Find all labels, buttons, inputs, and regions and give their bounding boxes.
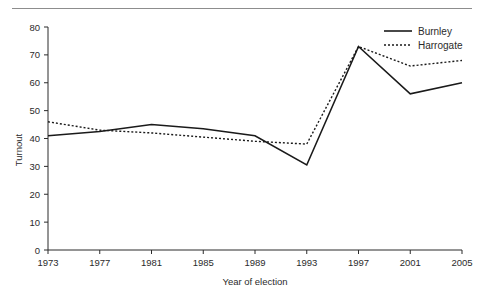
x-tick-label: 2001 — [400, 257, 421, 268]
x-tick-label: 1997 — [348, 257, 369, 268]
y-tick-label: 70 — [29, 49, 40, 60]
x-tick-label: 2005 — [451, 257, 472, 268]
chart-legend: Burnley Harrogate — [384, 26, 463, 51]
chart-figure: 01020304050607080 1973197719811985198919… — [0, 0, 482, 297]
y-tick-label: 0 — [35, 245, 40, 256]
x-tick-label: 1973 — [37, 257, 58, 268]
data-series-group — [48, 47, 462, 165]
y-axis-ticks: 01020304050607080 — [29, 22, 48, 256]
x-tick-label: 1977 — [89, 257, 110, 268]
x-axis-title: Year of election — [222, 276, 287, 287]
y-tick-label: 30 — [29, 161, 40, 172]
x-tick-label: 1985 — [193, 257, 214, 268]
y-tick-label: 10 — [29, 217, 40, 228]
series-line-burnley — [48, 47, 462, 165]
x-tick-label: 1981 — [141, 257, 162, 268]
line-chart-plot: 01020304050607080 1973197719811985198919… — [0, 0, 482, 297]
x-tick-label: 1993 — [296, 257, 317, 268]
y-tick-label: 40 — [29, 133, 40, 144]
legend-label-harrogate: Harrogate — [418, 40, 463, 51]
y-axis-title: Turnout — [13, 133, 24, 166]
x-axis-ticks: 197319771981198519891993199720012005 — [37, 250, 472, 268]
y-tick-label: 60 — [29, 77, 40, 88]
y-tick-label: 20 — [29, 189, 40, 200]
legend-label-burnley: Burnley — [418, 26, 452, 37]
x-tick-label: 1989 — [244, 257, 265, 268]
y-tick-label: 80 — [29, 22, 40, 33]
y-tick-label: 50 — [29, 105, 40, 116]
